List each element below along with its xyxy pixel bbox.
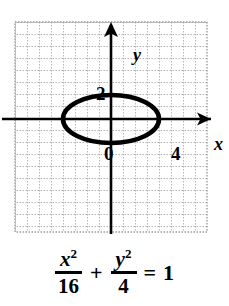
x-exponent: 2 [70,246,77,261]
x-term-fraction: x2 16 [55,249,82,297]
x-variable: x [60,247,71,271]
y-term-numerator: y2 [113,249,135,271]
ellipse-figure: 2 0 4 y x x2 16 + y2 4 = 1 [0,0,229,306]
x-term-numerator: x2 [57,249,80,271]
y-term-fraction: y2 4 [111,249,137,297]
x-term-denominator: 16 [55,274,82,297]
y-term-denominator: 4 [115,274,132,297]
x-vertex-label: 4 [171,144,181,163]
ellipse-curve [15,22,207,232]
y-variable: y [116,247,125,271]
x-axis-label: x [214,135,223,153]
ellipse-equation: x2 16 + y2 4 = 1 [0,243,229,303]
origin-label: 0 [104,144,114,163]
equals-sign: = [144,260,157,286]
y-exponent: 2 [125,246,132,261]
plus-operator: + [89,260,104,286]
equation-result: 1 [163,260,174,286]
coordinate-plot: 2 0 4 y x [15,22,207,232]
y-axis-label: y [133,46,141,64]
y-vertex-label: 2 [96,84,106,103]
